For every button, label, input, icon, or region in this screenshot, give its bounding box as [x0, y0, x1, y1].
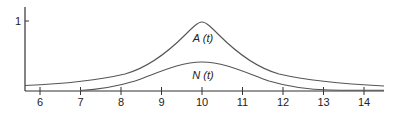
- x-tick-labels: 6 7 8 9 10 11 12 13 14: [37, 96, 370, 108]
- chart: 1 6 7 8 9 10 11 12 13 14 A (t) N (t): [0, 0, 397, 114]
- x-tick-label: 6: [37, 96, 43, 108]
- curve-a-label: A (t): [192, 32, 214, 44]
- curve-n-label: N (t): [192, 69, 214, 81]
- x-tick-label: 11: [237, 96, 248, 108]
- x-tick-label: 13: [317, 96, 329, 108]
- x-tick-label: 12: [277, 96, 289, 108]
- x-tick-label: 7: [77, 96, 83, 108]
- x-tick-label: 10: [196, 96, 208, 108]
- curve-n: [80, 62, 384, 91]
- x-tick-label: 8: [118, 96, 124, 108]
- x-tick-label: 9: [158, 96, 164, 108]
- x-tick-label: 14: [358, 96, 370, 108]
- y-tick-label-1: 1: [15, 15, 21, 27]
